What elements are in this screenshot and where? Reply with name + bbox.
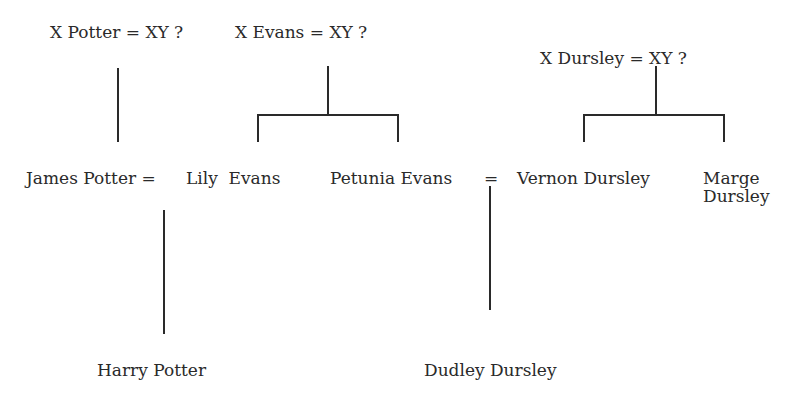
potter-child-line	[163, 210, 165, 334]
dursley-descent-line	[655, 66, 657, 116]
person-marge-dursley-line1: Marge	[703, 168, 760, 188]
evans-right-drop	[397, 114, 399, 142]
dursley-left-drop	[583, 114, 585, 142]
person-lily-evans: Lily Evans	[186, 168, 280, 188]
dursley-sibling-bar	[583, 114, 725, 116]
ancestor-x-dursley: X Dursley = XY ?	[540, 48, 687, 68]
person-petunia-evans: Petunia Evans	[330, 168, 452, 188]
ancestor-x-potter: X Potter = XY ?	[50, 22, 183, 42]
potter-descent-line	[117, 68, 119, 142]
person-marge-dursley-line2: Dursley	[703, 186, 770, 206]
dursley-right-drop	[723, 114, 725, 142]
evans-descent-line	[327, 66, 329, 116]
marriage-symbol: =	[484, 168, 498, 188]
ancestor-x-evans: X Evans = XY ?	[235, 22, 367, 42]
person-vernon-dursley: Vernon Dursley	[517, 168, 650, 188]
person-harry-potter: Harry Potter	[97, 360, 206, 380]
person-dudley-dursley: Dudley Dursley	[424, 360, 557, 380]
dursley-child-line	[489, 186, 491, 310]
evans-left-drop	[257, 114, 259, 142]
person-james-potter: James Potter =	[26, 168, 156, 188]
evans-sibling-bar	[257, 114, 399, 116]
